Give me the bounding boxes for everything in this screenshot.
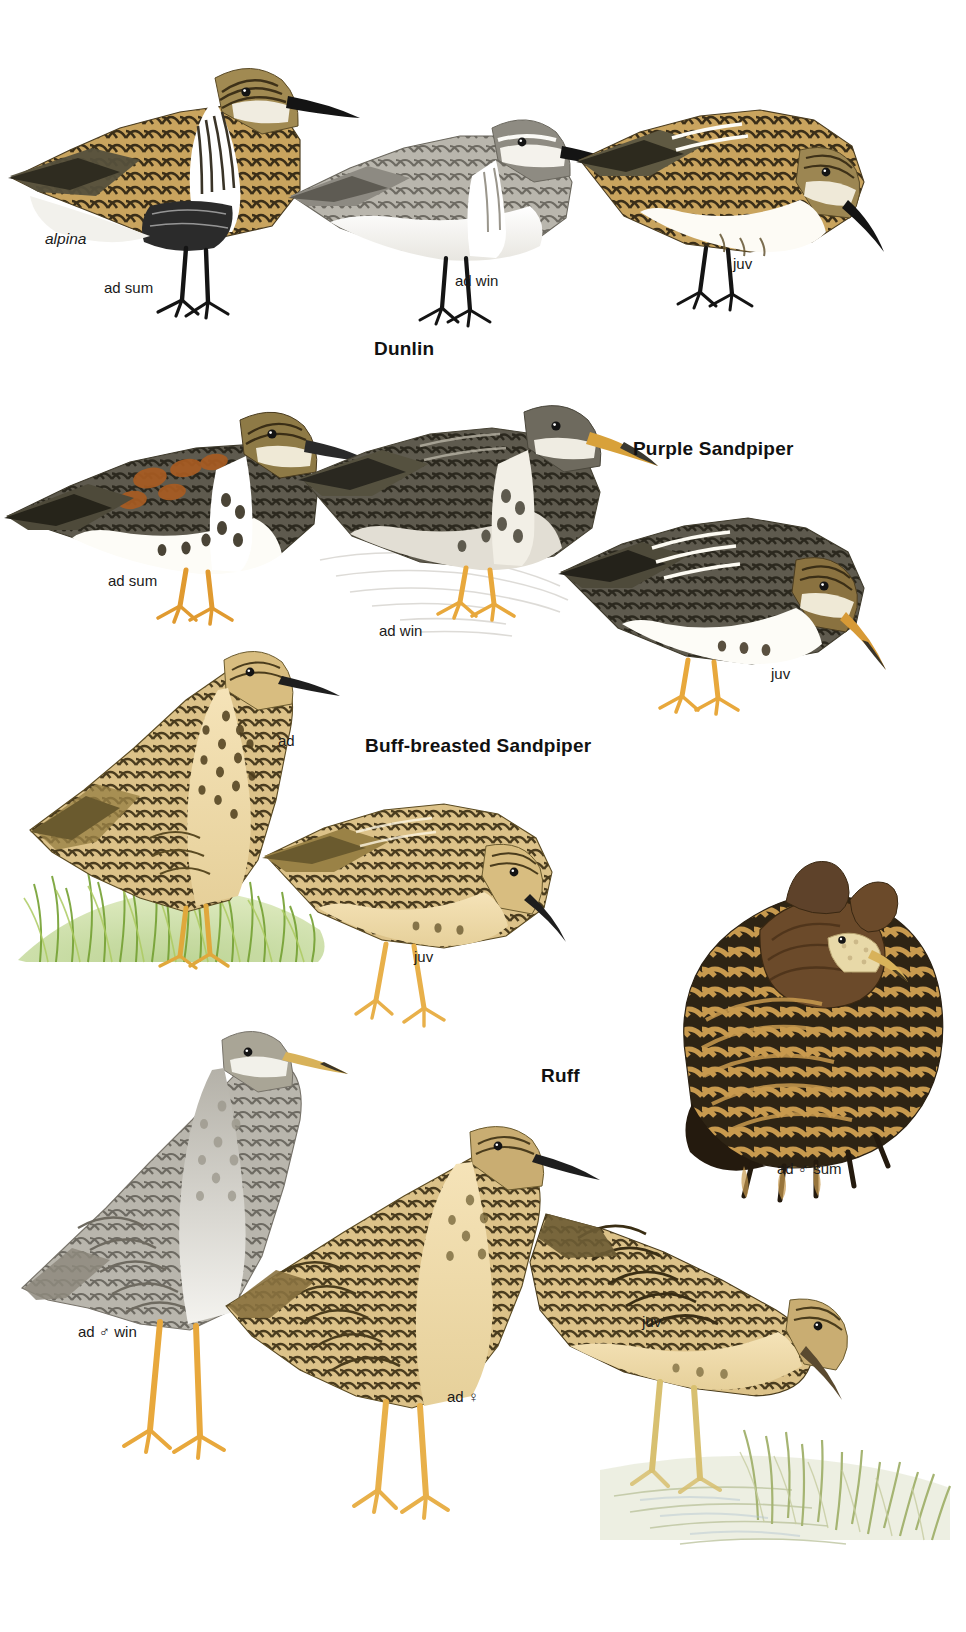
bird-ruff-ad-male-sum	[684, 861, 943, 1200]
rock-substrate	[320, 553, 568, 636]
bird-purple-juv	[558, 518, 886, 714]
species-name-purple-sandpiper: Purple Sandpiper	[633, 438, 794, 460]
bird-dunlin-ad-win	[288, 120, 632, 326]
field-guide-plate: Dunlin alpina ad sum ad win juv Purple S…	[0, 0, 966, 1632]
plumage-label-dunlin-ad-sum: ad sum	[104, 279, 153, 296]
plumage-label-purple-juv: juv	[771, 665, 790, 682]
plumage-label-buff-ad: ad	[278, 732, 295, 749]
plumage-label-ruff-ad-male-win: ad ♂ win	[78, 1323, 137, 1340]
plumage-label-purple-ad-win: ad win	[379, 622, 422, 639]
bird-ruff-juv	[530, 1214, 848, 1492]
bird-ruff-ad-male-win	[22, 1031, 348, 1458]
plumage-label-buff-juv: juv	[414, 948, 433, 965]
bird-buff-juv	[262, 804, 566, 1026]
bird-dunlin-juv	[576, 110, 884, 310]
bird-purple-ad-sum	[4, 412, 372, 624]
plumage-label-ruff-ad-male-sum: ad ♂ sum	[777, 1160, 842, 1177]
species-name-ruff: Ruff	[541, 1065, 580, 1087]
subspecies-label-alpina: alpina	[45, 230, 86, 248]
species-name-buff-breasted-sandpiper: Buff-breasted Sandpiper	[365, 735, 591, 757]
plumage-label-dunlin-ad-win: ad win	[455, 272, 498, 289]
plumage-label-dunlin-juv: juv	[733, 255, 752, 272]
species-name-dunlin: Dunlin	[374, 338, 434, 360]
plumage-label-ruff-juv: juv	[642, 1313, 661, 1330]
plumage-label-purple-ad-sum: ad sum	[108, 572, 157, 589]
plate-artwork	[0, 0, 966, 1632]
plumage-label-ruff-ad-female: ad ♀	[447, 1388, 479, 1405]
